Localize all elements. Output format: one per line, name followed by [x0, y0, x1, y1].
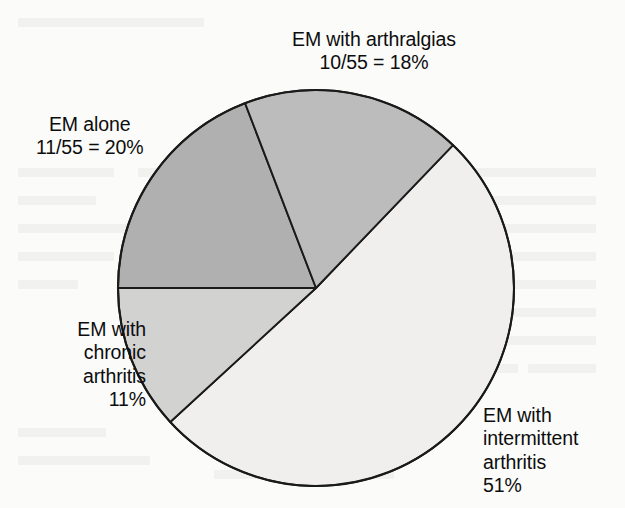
- slice-label-arthralgias-value: 10/55 = 18%: [292, 51, 456, 74]
- slice-label-chronic-arthritis-line3: arthritis: [18, 365, 146, 388]
- slice-label-em-alone-value: 11/55 = 20%: [36, 136, 144, 159]
- slice-label-em-alone-name: EM alone: [49, 113, 131, 135]
- slice-label-intermittent-arthritis: EM with intermittent arthritis 51%: [483, 404, 578, 498]
- slice-label-arthralgias: EM with arthralgias 10/55 = 18%: [292, 28, 456, 75]
- slice-label-intermittent-arthritis-line2: intermittent: [483, 427, 578, 450]
- slice-label-chronic-arthritis-line1: EM with: [77, 318, 146, 340]
- slice-label-chronic-arthritis: EM with chronic arthritis 11%: [18, 318, 146, 412]
- slice-label-intermittent-arthritis-value: 51%: [483, 474, 578, 497]
- pie-chart-canvas: EM with arthralgias 10/55 = 18% EM alone…: [0, 0, 625, 508]
- slice-label-chronic-arthritis-value: 11%: [18, 388, 146, 411]
- slice-label-em-alone: EM alone 11/55 = 20%: [36, 113, 144, 160]
- pie-chart-figure: EM with arthralgias 10/55 = 18% EM alone…: [0, 0, 625, 508]
- slice-label-chronic-arthritis-line2: chronic: [18, 341, 146, 364]
- slice-label-arthralgias-name: EM with arthralgias: [292, 28, 456, 50]
- slice-label-intermittent-arthritis-line1: EM with: [483, 404, 552, 426]
- slice-label-intermittent-arthritis-line3: arthritis: [483, 451, 578, 474]
